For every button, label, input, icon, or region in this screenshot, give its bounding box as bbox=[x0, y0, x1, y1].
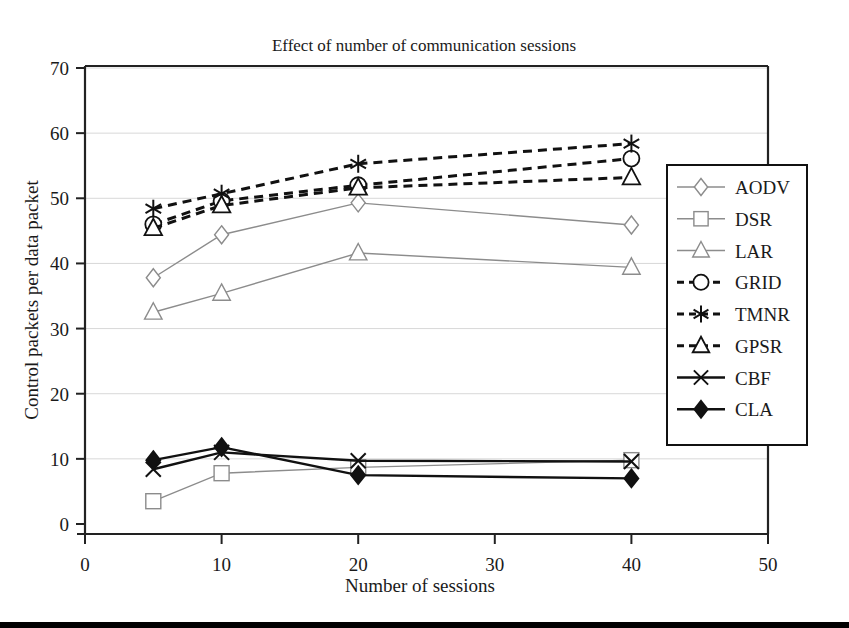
x-tick-label: 10 bbox=[212, 554, 231, 575]
x-tick-label: 0 bbox=[80, 554, 90, 575]
x-tick-label: 20 bbox=[349, 554, 368, 575]
legend-label: TMNR bbox=[735, 304, 790, 325]
marker-square-open bbox=[214, 466, 229, 481]
marker-circle-open bbox=[623, 151, 639, 167]
legend-box: AODVDSRLARGRIDTMNRGPSRCBFCLA bbox=[667, 165, 807, 445]
y-tick-label: 60 bbox=[50, 123, 69, 144]
x-tick-label: 40 bbox=[622, 554, 641, 575]
marker-square-open bbox=[146, 494, 161, 509]
legend-label: AODV bbox=[735, 177, 790, 198]
y-tick-label: 20 bbox=[50, 384, 69, 405]
marker-circle-open bbox=[693, 275, 708, 290]
x-tick-label: 30 bbox=[485, 554, 504, 575]
x-tick-label: 50 bbox=[759, 554, 778, 575]
line-chart: Effect of number of communication sessio… bbox=[0, 0, 849, 628]
data-point bbox=[694, 212, 708, 226]
legend-label: GRID bbox=[735, 272, 781, 293]
legend-label: LAR bbox=[735, 241, 773, 262]
y-tick-label: 40 bbox=[50, 253, 69, 274]
legend-label: CLA bbox=[735, 399, 773, 420]
y-tick-label: 70 bbox=[50, 58, 69, 79]
legend-label: GPSR bbox=[735, 336, 783, 357]
y-tick-label: 50 bbox=[50, 188, 69, 209]
data-point bbox=[214, 466, 229, 481]
chart-title: Effect of number of communication sessio… bbox=[272, 36, 576, 55]
data-point bbox=[623, 151, 639, 167]
y-tick-label: 0 bbox=[60, 514, 70, 535]
y-tick-label: 10 bbox=[50, 449, 69, 470]
marker-square-open bbox=[694, 212, 708, 226]
legend-label: CBF bbox=[735, 368, 771, 389]
chart-figure: Effect of number of communication sessio… bbox=[0, 0, 849, 628]
y-axis-label: Control packets per data packet bbox=[21, 180, 42, 420]
x-axis-label: Number of sessions bbox=[345, 575, 495, 596]
y-tick-label: 30 bbox=[50, 319, 69, 340]
data-point bbox=[146, 494, 161, 509]
bottom-rule bbox=[0, 622, 849, 628]
legend-label: DSR bbox=[735, 209, 772, 230]
data-point bbox=[693, 275, 708, 290]
